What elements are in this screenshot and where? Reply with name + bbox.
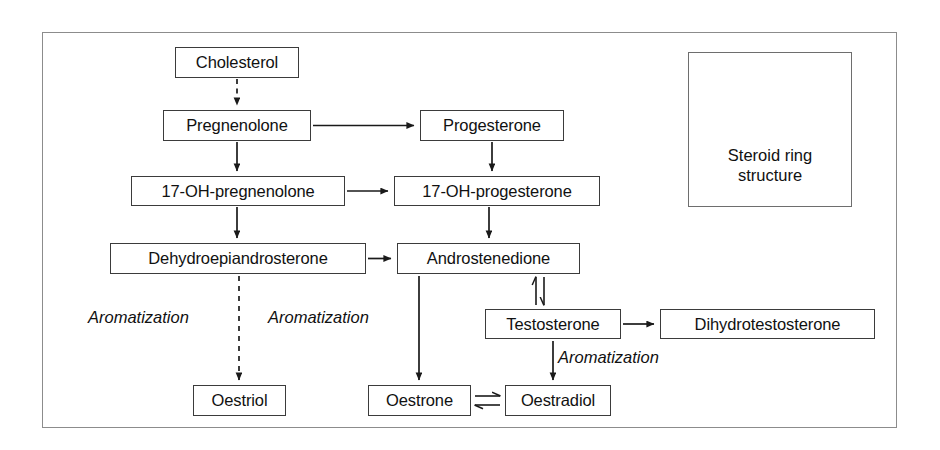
node-progesterone[interactable]: Progesterone — [420, 110, 564, 141]
node-17-oh-pregnenolone[interactable]: 17-OH-pregnenolone — [131, 176, 345, 206]
node-dehydroepiandrosterone[interactable]: Dehydroepiandrosterone — [110, 243, 366, 274]
node-pregnenolone[interactable]: Pregnenolone — [163, 110, 311, 141]
label-aromatization-testosterone-oestradiol: Aromatization — [558, 349, 659, 366]
node-cholesterol[interactable]: Cholesterol — [175, 47, 299, 78]
label-aromatization-dhea-oestriol: Aromatization — [88, 309, 189, 326]
node-dihydrotestosterone[interactable]: Dihydrotestosterone — [660, 309, 875, 339]
node-oestradiol[interactable]: Oestradiol — [505, 385, 611, 416]
label-aromatization-androstenedione-oestrone: Aromatization — [268, 309, 369, 326]
node-17-oh-progesterone[interactable]: 17-OH-progesterone — [394, 176, 600, 206]
node-oestrone[interactable]: Oestrone — [368, 385, 471, 416]
node-oestriol[interactable]: Oestriol — [193, 385, 286, 416]
steroid-ring-panel: Steroid ring structure — [688, 52, 852, 207]
steroid-pathway-diagram: Cholesterol Pregnenolone Progesterone 17… — [0, 0, 940, 450]
node-testosterone[interactable]: Testosterone — [485, 309, 621, 339]
steroid-ring-caption-line2: structure — [689, 166, 851, 185]
steroid-ring-caption-line1: Steroid ring — [689, 146, 851, 165]
node-androstenedione[interactable]: Androstenedione — [397, 243, 580, 274]
